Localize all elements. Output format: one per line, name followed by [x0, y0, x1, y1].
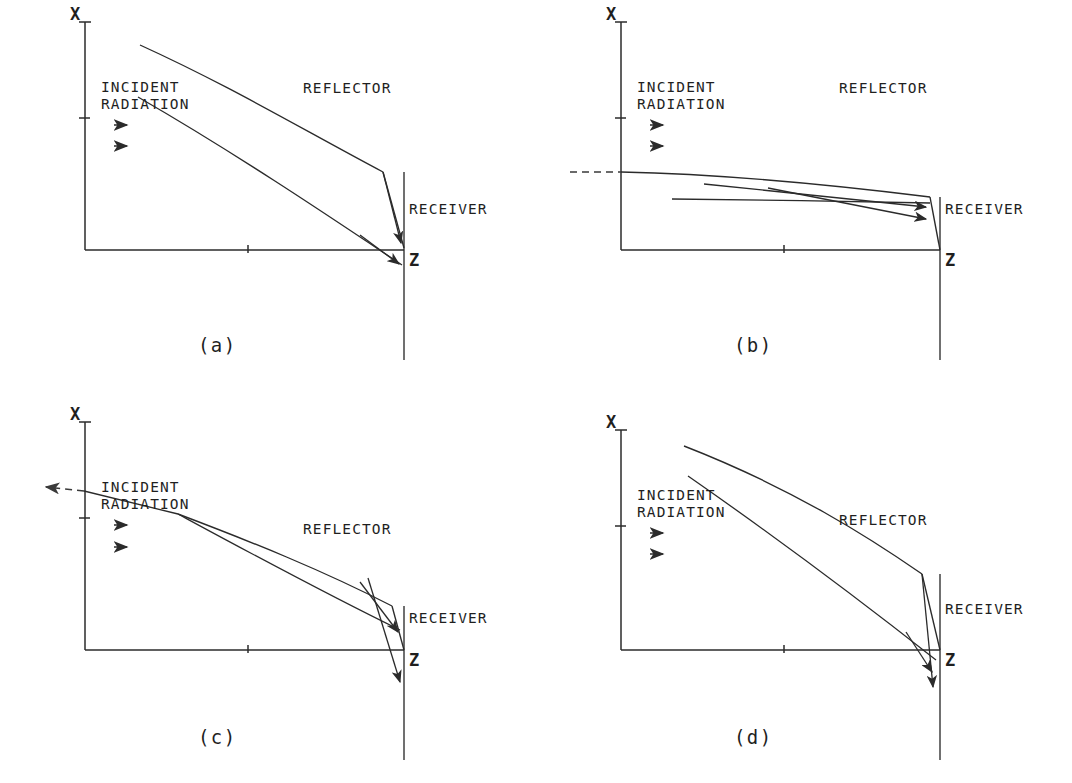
- incident-ray-lower-b: [672, 199, 930, 203]
- panel-caption-d: (d): [734, 726, 773, 748]
- panel-a: X Z INCIDENT RADIATION REFLECTOR RECEIVE…: [0, 0, 536, 391]
- reflector-label-c: REFLECTOR: [303, 521, 391, 537]
- receiver-label-d: RECEIVER: [945, 601, 1024, 617]
- x-axis-label-b: X: [606, 4, 617, 24]
- receiver-face-c: [392, 606, 404, 650]
- panel-b-svg: X Z INCIDENT RADIATION REFLECTOR RECEIVE…: [536, 0, 1072, 391]
- incident-label-line1-b: INCIDENT: [637, 79, 716, 95]
- incident-label-line2-d: RADIATION: [637, 504, 725, 520]
- escaping-ray-dashed-c: [46, 487, 84, 491]
- z-axis-label-a: Z: [409, 250, 420, 270]
- panel-c-svg: X Z INCIDENT RADIATION REFLECTOR RECEIVE…: [0, 392, 536, 783]
- reflector-label-a: REFLECTOR: [303, 80, 391, 96]
- panel-d-svg: X Z INCIDENT RADIATION REFLECTOR RECEIVE…: [536, 392, 1072, 783]
- z-axis-label-d: Z: [945, 650, 956, 670]
- x-axis-label-d: X: [606, 412, 617, 432]
- z-axis-label-c: Z: [409, 650, 420, 670]
- panel-caption-b: (b): [734, 334, 773, 356]
- figure-root: X Z INCIDENT RADIATION REFLECTOR RECEIVE…: [0, 0, 1072, 783]
- reflected-ray-1-b: [704, 184, 926, 207]
- receiver-label-b: RECEIVER: [945, 201, 1024, 217]
- receiver-face-b: [930, 197, 940, 250]
- incident-ray-lower-a: [138, 97, 402, 265]
- receiver-face-d: [922, 574, 940, 650]
- incident-label-line1-a: INCIDENT: [101, 79, 180, 95]
- incident-label-line2-c: RADIATION: [101, 496, 189, 512]
- panel-a-svg: X Z INCIDENT RADIATION REFLECTOR RECEIVE…: [0, 0, 536, 391]
- panel-d: X Z INCIDENT RADIATION REFLECTOR RECEIVE…: [536, 392, 1072, 783]
- x-axis-label-c: X: [70, 404, 81, 424]
- incident-label-line2-b: RADIATION: [637, 96, 725, 112]
- z-axis-label-b: Z: [945, 250, 956, 270]
- reflector-surface-b: [621, 172, 930, 197]
- reflected-ray-steep-c: [368, 578, 400, 682]
- panel-caption-c: (c): [198, 726, 237, 748]
- receiver-label-c: RECEIVER: [409, 610, 488, 626]
- reflected-ray-arrow-a: [383, 172, 401, 243]
- panel-c: X Z INCIDENT RADIATION REFLECTOR RECEIVE…: [0, 392, 536, 783]
- panel-caption-a: (a): [198, 334, 237, 356]
- reflected-ray-2-b: [768, 188, 926, 219]
- reflector-label-b: REFLECTOR: [839, 80, 927, 96]
- incident-label-line1-c: INCIDENT: [101, 479, 180, 495]
- x-axis-label-a: X: [70, 4, 81, 24]
- incident-label-line1-d: INCIDENT: [637, 487, 716, 503]
- receiver-label-a: RECEIVER: [409, 201, 488, 217]
- panel-b: X Z INCIDENT RADIATION REFLECTOR RECEIVE…: [536, 0, 1072, 391]
- reflector-label-d: REFLECTOR: [839, 512, 927, 528]
- incident-label-line2-a: RADIATION: [101, 96, 189, 112]
